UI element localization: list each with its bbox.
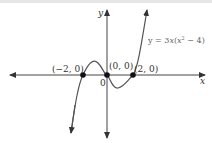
point-label-pos2: (2, 0)	[134, 64, 158, 74]
y-axis-label: y	[97, 8, 104, 18]
curve-lower-arrow	[71, 105, 75, 133]
origin-label: 0	[100, 78, 106, 88]
cubic-graph: (−2, 0) (0, 0) (2, 0) 0 x y y = 3x(x2 − …	[0, 0, 212, 143]
point-label-origin: (0, 0)	[109, 61, 133, 71]
equation-label: y = 3x(x2 − 4)	[147, 35, 205, 45]
x-axis-label: x	[200, 76, 205, 86]
point-label-neg2: (−2, 0)	[52, 64, 84, 74]
point-origin	[104, 72, 110, 78]
